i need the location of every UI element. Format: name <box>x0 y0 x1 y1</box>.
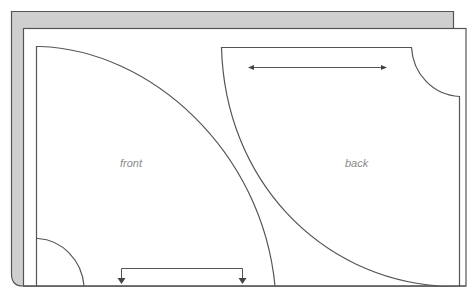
back-piece-label: back <box>345 157 369 169</box>
front-piece-label: front <box>120 157 143 169</box>
pattern-layout-diagram: front back <box>0 0 471 298</box>
